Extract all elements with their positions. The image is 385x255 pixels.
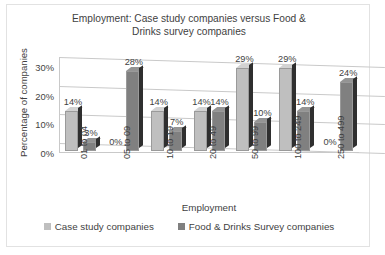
bar-front-face [279,68,292,151]
bar-front-face [151,111,164,151]
y-axis-tick-label: 10% [35,119,54,130]
bar-side-face [182,125,186,148]
bar-data-label: 14% [64,97,82,107]
bar-side-face [353,77,357,148]
chart-container: Employment: Case study companies versus … [6,4,370,247]
bar-data-label: 14% [192,97,210,107]
y-axis-tick-label: 0% [40,148,54,159]
bar-case-study[interactable] [65,111,78,151]
x-axis-tick-label: 100 to 249 [293,116,303,159]
bar-data-label: 29% [235,54,253,64]
bar-case-study[interactable] [236,68,249,151]
x-axis-tick-label: 250 to 499 [336,116,346,159]
bar-data-label: 29% [278,54,296,64]
plot-area: 0%10%20%30% 14%3%0%28%14%7%14%14%29%10%2… [59,57,359,153]
bar-data-label: 0% [109,137,122,147]
bar-data-label: 10% [253,108,271,118]
bar-data-label: 0% [324,137,337,147]
axis-left-wall [59,57,60,153]
bar-side-face [310,105,314,148]
x-axis-tick-label: 20 to 49 [208,126,218,159]
legend-item[interactable]: Case study companies [44,221,154,232]
legend-swatch-icon [44,223,51,230]
bar-side-face [139,65,143,148]
bar-data-label: 24% [339,68,357,78]
bar-front-face [194,111,207,151]
y-axis-tick-label: 30% [35,62,54,73]
x-axis-tick-label: 05 to 09 [122,126,132,159]
chart-title: Employment: Case study companies versus … [31,12,347,38]
x-axis-tick-label: 50 to 99 [250,126,260,159]
bar-side-face [267,117,271,148]
chart-title-line-1: Employment: Case study companies versus … [72,13,306,24]
legend-label: Food & Drinks Survey companies [189,221,334,232]
gridline [59,86,385,97]
bar-front-face [236,68,249,151]
bar-data-label: 14% [210,97,228,107]
bar-case-study[interactable] [194,111,207,151]
chart-title-line-2: Drinks survey companies [132,26,246,37]
legend-swatch-icon [178,223,185,230]
bar-data-label: 14% [296,97,314,107]
bar-data-label: 14% [150,97,168,107]
legend-label: Case study companies [55,221,154,232]
y-axis-title: Percentage of companies [18,43,29,163]
bar-side-face [225,105,229,148]
gridline [59,57,385,68]
x-axis-tick-label: 01 to 04 [79,126,89,159]
bar-case-study[interactable] [279,68,292,151]
x-axis-tick-label: 10 to 19 [165,126,175,159]
bar-case-study[interactable] [151,111,164,151]
chart-legend: Case study companiesFood & Drinks Survey… [31,221,347,232]
bar-front-face [65,111,78,151]
y-axis-tick-label: 20% [35,90,54,101]
bar-data-label: 28% [125,57,143,67]
legend-item[interactable]: Food & Drinks Survey companies [178,221,334,232]
x-axis-title: Employment [59,202,359,213]
